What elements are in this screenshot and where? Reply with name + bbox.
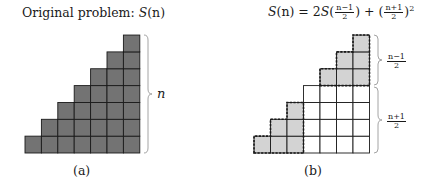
panel-a-brace-label: n	[157, 86, 165, 101]
panel-a-staircase	[25, 35, 140, 153]
panel-b-lower-brace	[374, 87, 382, 153]
panel-b-plain-cells	[304, 86, 370, 153]
panel-a-caption: (a)	[73, 163, 90, 178]
panel-b-caption: (b)	[304, 163, 322, 178]
panel-b-upper-subproblem	[320, 35, 370, 86]
panel-b-lower-brace-label: n+12	[386, 111, 407, 130]
fraction-denominator: 2	[394, 122, 399, 130]
panel-b-upper-brace-label: n−12	[386, 51, 407, 70]
lower-label-fraction: n+12	[387, 113, 406, 130]
panel-b-upper-brace	[374, 35, 382, 85]
diagram-canvas	[0, 0, 426, 186]
upper-label-fraction: n−12	[387, 53, 406, 70]
fraction-denominator: 2	[394, 62, 399, 70]
panel-b-lower-subproblem	[254, 102, 304, 153]
panel-a-brace	[144, 35, 152, 153]
